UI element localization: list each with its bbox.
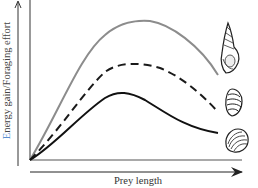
y-axis-label-first-letter: E xyxy=(2,132,13,138)
x-axis-label-container: Prey length xyxy=(0,175,258,186)
y-direction-arrow xyxy=(15,1,21,166)
mussel-shell-icon xyxy=(226,89,242,116)
clam-shell-icon xyxy=(226,129,248,152)
elongated-shell-icon xyxy=(221,23,239,73)
x-axis-label: Prey length xyxy=(114,175,162,186)
foraging-chart xyxy=(0,0,258,188)
y-axis-label-rest: nergy gain/Foraging effort xyxy=(2,21,13,132)
y-axis-label: Energy gain/Foraging effort xyxy=(1,0,13,160)
curve-mussel-prey xyxy=(30,64,218,160)
